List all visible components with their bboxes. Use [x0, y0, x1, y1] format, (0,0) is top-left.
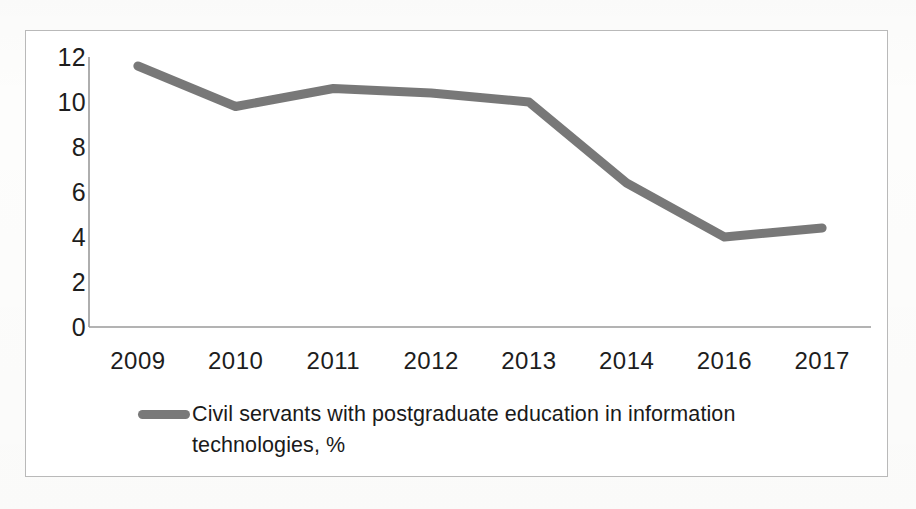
x-tick-label: 2009: [110, 347, 165, 375]
x-tick-label: 2013: [501, 347, 556, 375]
legend-line-marker: [138, 410, 190, 419]
legend-label: Civil servants with postgraduate educati…: [192, 399, 792, 461]
x-tick-label: 2012: [403, 347, 458, 375]
x-tick-label: 2011: [307, 347, 361, 375]
chart-legend: Civil servants with postgraduate educati…: [138, 399, 818, 461]
x-tick-label: 2010: [208, 347, 263, 375]
x-tick-label: 2016: [697, 347, 752, 375]
x-tick-label: 2017: [794, 347, 849, 375]
chart-frame: 121086420 200920102011201220132014201620…: [25, 30, 888, 477]
x-tick-label: 2014: [599, 347, 654, 375]
